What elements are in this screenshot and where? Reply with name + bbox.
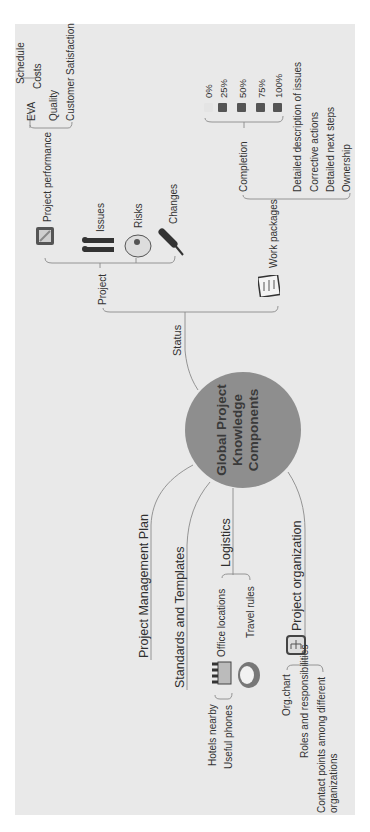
people-icon bbox=[82, 234, 117, 256]
node-contact-points[interactable]: Contact points among different bbox=[316, 677, 328, 813]
node-completion-100[interactable]: 100% bbox=[273, 74, 284, 98]
completion-100-icon bbox=[273, 103, 282, 112]
completion-0-icon bbox=[204, 103, 213, 112]
node-project-management-plan[interactable]: Project Management Plan bbox=[137, 514, 151, 658]
completion-25-icon bbox=[218, 103, 227, 112]
completion-50-icon bbox=[237, 103, 246, 112]
node-completion-0[interactable]: 0% bbox=[203, 84, 214, 98]
node-project[interactable]: Project bbox=[97, 274, 109, 305]
node-costs[interactable]: Costs bbox=[32, 63, 44, 89]
node-hotels-nearby[interactable]: Hotels nearby bbox=[207, 704, 219, 766]
completion-75-icon bbox=[256, 103, 265, 112]
node-schedule[interactable]: Schedule bbox=[15, 42, 27, 84]
clipboard-edit-icon bbox=[35, 226, 55, 246]
node-project-organization[interactable]: Project organization bbox=[290, 521, 304, 631]
node-detailed-description[interactable]: Detailed description of issues bbox=[292, 62, 304, 192]
node-quality[interactable]: Quality bbox=[48, 90, 60, 121]
node-completion[interactable]: Completion bbox=[238, 141, 250, 192]
node-useful-phones[interactable]: Useful phones bbox=[223, 705, 235, 769]
node-project-performance[interactable]: Project performance bbox=[42, 132, 54, 222]
node-detailed-next-steps[interactable]: Detailed next steps bbox=[325, 107, 337, 192]
node-risks[interactable]: Risks bbox=[133, 204, 145, 228]
building-icon bbox=[210, 658, 232, 686]
central-node-label: Global Project Knowledge Components bbox=[214, 375, 262, 485]
hard-hat-icon bbox=[123, 232, 153, 262]
node-logistics[interactable]: Logistics bbox=[219, 518, 233, 567]
node-completion-75[interactable]: 75% bbox=[256, 79, 267, 98]
node-roles-responsibilities[interactable]: Roles and responsibilities bbox=[299, 645, 311, 758]
node-travel-rules[interactable]: Travel rules bbox=[245, 586, 257, 638]
node-completion-50[interactable]: 50% bbox=[237, 79, 248, 98]
central-line-2: Knowledge bbox=[230, 375, 246, 485]
node-customer-satisfaction[interactable]: Customer Satisfaction bbox=[65, 23, 77, 121]
screwdriver-icon bbox=[158, 228, 186, 258]
node-eva[interactable]: EVA bbox=[26, 102, 38, 121]
checklist-icon bbox=[258, 275, 280, 297]
node-contact-points-cont: organizations bbox=[328, 754, 340, 813]
hat-icon bbox=[236, 660, 262, 690]
node-completion-25[interactable]: 25% bbox=[218, 79, 229, 98]
node-changes[interactable]: Changes bbox=[168, 184, 180, 224]
central-line-1: Global Project bbox=[214, 375, 230, 485]
node-issues[interactable]: Issues bbox=[95, 203, 107, 232]
node-work-packages[interactable]: Work packages bbox=[268, 199, 280, 268]
central-line-3: Components bbox=[246, 375, 262, 485]
node-ownership[interactable]: Ownership bbox=[341, 144, 353, 192]
node-corrective-actions[interactable]: Corrective actions bbox=[309, 112, 321, 192]
node-standards-and-templates[interactable]: Standards and Templates bbox=[173, 546, 187, 688]
node-status[interactable]: Status bbox=[171, 325, 184, 356]
node-org-chart[interactable]: Org.chart bbox=[281, 674, 293, 716]
node-office-locations[interactable]: Office locations bbox=[216, 589, 228, 657]
